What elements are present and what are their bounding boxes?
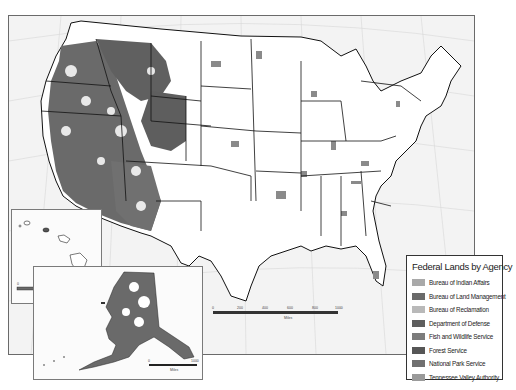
swatch	[412, 360, 425, 367]
legend-item-bor: Bureau of Reclamation	[412, 303, 497, 317]
alaska-map	[34, 267, 202, 379]
scale-tick: 0	[148, 359, 150, 363]
scale-tick: 200	[237, 306, 243, 310]
scale-tick: 800	[312, 306, 318, 310]
legend-item-tva: Tennessee Valley Authority	[412, 371, 497, 385]
swatch	[412, 333, 425, 340]
main-scale-bar	[213, 311, 338, 314]
legend-item-nps: National Park Service	[412, 357, 497, 371]
legend-item-fs: Forest Service	[412, 344, 497, 358]
legend: Federal Lands by Agency Bureau of Indian…	[406, 255, 503, 380]
swatch	[412, 347, 425, 354]
legend-item-blm: Bureau of Land Management	[412, 290, 497, 304]
scale-tick: 1000	[335, 306, 343, 310]
scale-tick: 400	[262, 306, 268, 310]
legend-title: Federal Lands by Agency	[412, 261, 497, 272]
scale-tick: 0	[17, 282, 19, 286]
scale-unit: Miles	[170, 368, 178, 372]
scale-unit: Miles	[284, 316, 292, 320]
swatch	[412, 306, 425, 313]
swatch	[412, 320, 425, 327]
scale-tick: 600	[287, 306, 293, 310]
swatch	[412, 279, 425, 286]
legend-item-dod: Department of Defense	[412, 317, 497, 331]
legend-item-bia: Bureau of Indian Affairs	[412, 276, 497, 290]
legend-item-fws: Fish and Wildlife Service	[412, 330, 497, 344]
scale-tick: 1000	[191, 359, 199, 363]
scale-tick: 0	[212, 306, 214, 310]
swatch	[412, 293, 425, 300]
alaska-inset: 0 1000 Miles	[33, 266, 203, 380]
swatch	[412, 374, 425, 381]
